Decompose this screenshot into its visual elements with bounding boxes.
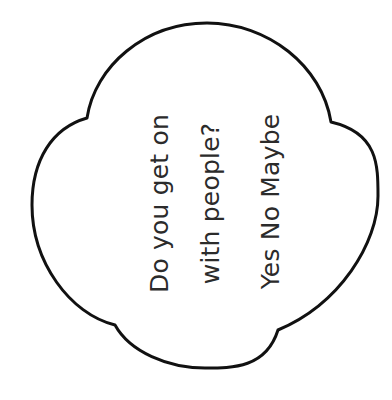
worksheet-page: Do you get on with people? Yes No Maybe (0, 0, 392, 400)
quatrefoil-outline-icon (0, 0, 392, 400)
quatrefoil-shape-layer (0, 0, 392, 400)
quatrefoil-outline-path (32, 23, 378, 368)
